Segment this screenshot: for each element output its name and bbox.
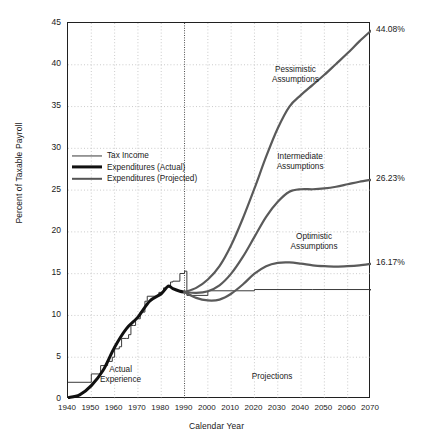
annotation-pessimistic: Pessimistic Assumptions bbox=[272, 65, 319, 85]
annotation-optimistic-line2: Assumptions bbox=[291, 242, 338, 251]
y-tick-45: 45 bbox=[35, 18, 61, 27]
annotation-optimistic: Optimistic Assumptions bbox=[291, 232, 338, 252]
region-actual-line2: Experience bbox=[100, 375, 141, 384]
y-tick-10: 10 bbox=[35, 310, 61, 319]
end-label-44.08: 44.08% bbox=[376, 25, 405, 34]
legend-swatch-tax-income bbox=[72, 150, 102, 162]
y-tick-30: 30 bbox=[35, 143, 61, 152]
chart-container: Percent of Taxable Payroll Calendar Year… bbox=[0, 0, 433, 439]
legend-item-tax-income: Tax Income bbox=[72, 150, 197, 162]
annotation-pessimistic-line1: Pessimistic bbox=[275, 65, 316, 74]
gridlines bbox=[68, 23, 371, 399]
legend-swatch-expenditures-actual bbox=[72, 162, 102, 174]
x-axis-label: Calendar Year bbox=[0, 421, 433, 431]
annotation-intermediate: Intermediate Assumptions bbox=[277, 152, 324, 172]
y-tick-5: 5 bbox=[35, 352, 61, 361]
annotation-pessimistic-line2: Assumptions bbox=[272, 75, 319, 84]
data-series bbox=[68, 31, 371, 398]
annotation-optimistic-line1: Optimistic bbox=[296, 232, 332, 241]
region-projections-text: Projections bbox=[252, 372, 293, 381]
legend-item-expenditures-projected: Expenditures (Projected) bbox=[72, 173, 197, 185]
end-label-26.23: 26.23% bbox=[376, 174, 405, 183]
y-tick-0: 0 bbox=[35, 394, 61, 403]
legend-label-tax-income: Tax Income bbox=[107, 150, 149, 162]
legend-label-expenditures-actual: Expenditures (Actual) bbox=[107, 162, 185, 174]
y-axis-label: Percent of Taxable Payroll bbox=[14, 113, 24, 233]
annotation-intermediate-line1: Intermediate bbox=[277, 152, 323, 161]
plot-svg bbox=[68, 23, 371, 399]
y-tick-35: 35 bbox=[35, 101, 61, 110]
plot-area bbox=[67, 22, 370, 398]
legend-swatch-expenditures-projected bbox=[72, 173, 102, 185]
annotation-intermediate-line2: Assumptions bbox=[277, 162, 324, 171]
chart-legend: Tax Income Expenditures (Actual) Expendi… bbox=[72, 150, 197, 185]
region-label-projections: Projections bbox=[252, 372, 293, 382]
region-label-actual-experience: Actual Experience bbox=[100, 365, 141, 385]
y-tick-25: 25 bbox=[35, 185, 61, 194]
x-tick-2070: 2070 bbox=[355, 404, 385, 412]
y-tick-20: 20 bbox=[35, 226, 61, 235]
region-actual-line1: Actual bbox=[109, 365, 132, 374]
legend-item-expenditures-actual: Expenditures (Actual) bbox=[72, 162, 197, 174]
legend-label-expenditures-projected: Expenditures (Projected) bbox=[107, 173, 197, 185]
y-tick-40: 40 bbox=[35, 59, 61, 68]
series-path-4 bbox=[185, 262, 371, 300]
end-label-16.17: 16.17% bbox=[376, 258, 405, 267]
y-tick-15: 15 bbox=[35, 268, 61, 277]
